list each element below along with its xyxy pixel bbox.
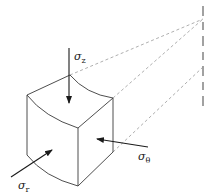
top-front-right-edge — [78, 98, 113, 128]
projection-line-bottom — [113, 67, 203, 152]
sigma-r-arrow — [11, 150, 52, 177]
projection-line-right — [113, 19, 203, 98]
sigma-theta-label: σθ — [138, 150, 151, 165]
bottom-left-edge — [27, 155, 78, 186]
stress-element-diagram: σz σθ σr — [0, 0, 218, 196]
sigma-z-label: σz — [74, 50, 86, 65]
sigma-theta-arrow — [97, 139, 148, 147]
sigma-r-label: σr — [18, 179, 30, 194]
bottom-right-edge — [78, 152, 113, 186]
top-front-left-edge — [27, 95, 78, 128]
element-block — [27, 75, 113, 186]
projection-line-top — [70, 19, 203, 75]
top-back-left-edge — [27, 75, 70, 95]
top-back-right-edge — [70, 75, 113, 98]
